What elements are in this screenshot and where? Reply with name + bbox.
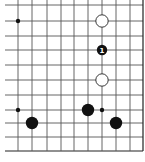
white-stone-icon [96,74,108,86]
black-stone [26,117,38,129]
black-stone-icon [26,117,38,129]
black-stone: 1 [97,45,107,55]
white-stone [96,15,108,27]
marker-dot-icon [16,19,20,23]
black-stone [82,104,94,116]
black-stone-icon [82,104,94,116]
white-stone [96,74,108,86]
move-number-label: 1 [100,47,105,55]
white-stone-icon [96,15,108,27]
grid-lines [5,0,143,151]
marker-dot-icon [100,108,104,112]
black-stone-icon [110,117,122,129]
go-board: 1 [0,0,145,162]
markers-layer [16,19,104,112]
black-stone [110,117,122,129]
marker-dot-icon [16,108,20,112]
